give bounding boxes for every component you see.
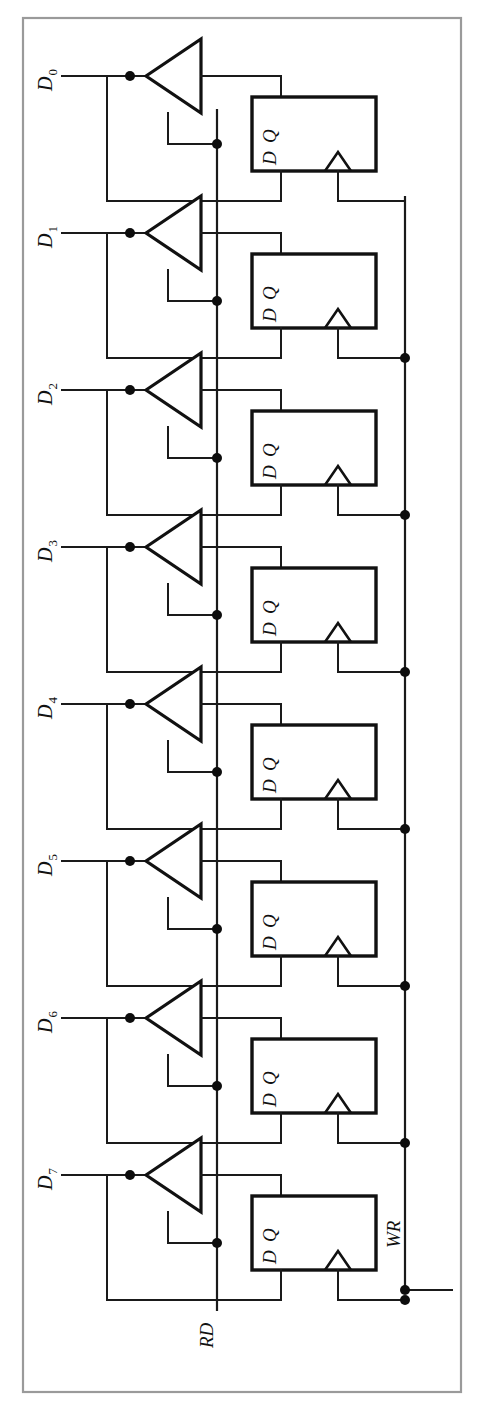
junction-wr-d1 [400, 353, 410, 363]
ff-pin-d-d5: D [259, 936, 280, 951]
junction-wr-d6 [400, 1138, 410, 1148]
junction-data-d2 [125, 385, 135, 395]
junction-rd-d3 [212, 610, 222, 620]
ff-pin-q-d5: Q [259, 914, 280, 928]
junction-rd-d4 [212, 767, 222, 777]
junction-wr-d7 [400, 1295, 410, 1305]
junction-rd-d6 [212, 1081, 222, 1091]
junction-rd-d7 [212, 1238, 222, 1248]
junction-wr-d2 [400, 510, 410, 520]
junction-rd-d5 [212, 924, 222, 934]
junction-rd-d1 [212, 296, 222, 306]
ff-pin-q-d4: Q [259, 757, 280, 771]
ff-pin-d-d4: D [259, 779, 280, 794]
circuit-figure: QDQDQDQDQDQDQDQD RDWRD0D1D2D3D4D5D6D7 [0, 0, 483, 1406]
ff-pin-d-d2: D [259, 465, 280, 480]
junction-wr-d3 [400, 667, 410, 677]
ff-pin-q-d1: Q [259, 286, 280, 300]
junction-rd-d0 [212, 139, 222, 149]
junction-data-d1 [125, 228, 135, 238]
ff-pin-q-d7: Q [259, 1228, 280, 1242]
ff-pin-d-d0: D [259, 151, 280, 166]
circuit-schematic-canvas: QDQDQDQDQDQDQDQD RDWRD0D1D2D3D4D5D6D7 [0, 0, 483, 1406]
junction-rd-d2 [212, 453, 222, 463]
bus-label-wr: WR [383, 1220, 404, 1248]
junction-wr-d5 [400, 981, 410, 991]
ff-pin-d-d3: D [259, 622, 280, 637]
junction-data-d0 [125, 71, 135, 81]
junction-data-d7 [125, 1170, 135, 1180]
ff-pin-q-d3: Q [259, 600, 280, 614]
junction-wr-d4 [400, 824, 410, 834]
ff-pin-q-d0: Q [259, 129, 280, 143]
ff-pin-q-d6: Q [259, 1071, 280, 1085]
ff-pin-d-d1: D [259, 308, 280, 323]
junction-wr-terminal [400, 1285, 410, 1295]
junction-data-d4 [125, 699, 135, 709]
ff-pin-d-d7: D [259, 1250, 280, 1265]
ff-pin-q-d2: Q [259, 443, 280, 457]
junction-data-d6 [125, 1013, 135, 1023]
junction-data-d5 [125, 856, 135, 866]
junction-data-d3 [125, 542, 135, 552]
bus-label-rd: RD [196, 1322, 217, 1349]
ff-pin-d-d6: D [259, 1093, 280, 1108]
